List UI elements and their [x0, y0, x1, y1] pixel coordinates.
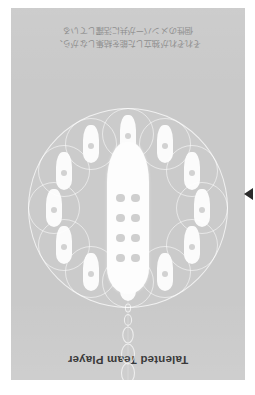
center-pin-dot: [131, 214, 140, 223]
center-pin-dot: [116, 254, 125, 263]
caption-line-2: 個性のメンバーが共に活躍している: [11, 24, 245, 37]
satellite-pin-dot: [125, 133, 131, 139]
satellite-pin-dot: [189, 170, 195, 176]
satellite-pin-dot: [88, 143, 94, 149]
center-pin-dots: [113, 188, 143, 268]
satellite-pin-dot: [61, 244, 67, 250]
triangle-left-icon: [244, 188, 253, 200]
satellite-pin: [83, 125, 99, 163]
center-pin: [107, 142, 149, 294]
chain-decoration-icon: [117, 298, 139, 380]
satellite-pin-dot: [61, 170, 67, 176]
center-pin-dot: [131, 254, 140, 263]
satellite-pin: [157, 253, 173, 291]
poster-card: Talented Team Player: [11, 8, 245, 380]
satellite-pin-dot: [88, 271, 94, 277]
caption-line-1: それぞれが独立した能を結集しながら、: [11, 37, 245, 50]
center-pin-dot: [131, 234, 140, 243]
team-emblem: [28, 108, 228, 308]
caption-block: それぞれが独立した能を結集しながら、 個性のメンバーが共に活躍している: [11, 24, 245, 50]
center-pin-dot: [116, 194, 125, 203]
satellite-pin-dot: [162, 271, 168, 277]
satellite-pin-dot: [51, 207, 57, 213]
poster-stage: Talented Team Player: [0, 0, 255, 395]
satellite-pin-dot: [199, 207, 205, 213]
center-pin-dot: [131, 194, 140, 203]
center-pin-dot: [116, 234, 125, 243]
center-pin-dot: [116, 214, 125, 223]
